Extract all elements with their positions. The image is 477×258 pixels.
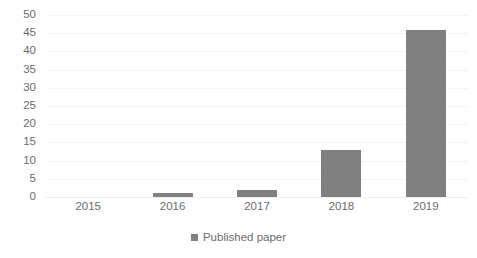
y-axis-tick-label: 20 xyxy=(23,118,36,130)
bar-2017[interactable] xyxy=(237,190,277,197)
y-axis: 50 45 40 35 30 25 20 15 10 5 0 xyxy=(0,0,44,258)
bar-slot xyxy=(299,15,383,197)
bar-2018[interactable] xyxy=(321,150,361,197)
legend-swatch-icon xyxy=(191,234,198,241)
legend-label: Published paper xyxy=(203,232,286,244)
x-axis-tick-label: 2017 xyxy=(244,201,270,213)
y-axis-tick-label: 30 xyxy=(23,82,36,94)
bar-slot xyxy=(130,15,214,197)
bar-2019[interactable] xyxy=(406,30,446,197)
x-axis-tick-label: 2018 xyxy=(329,201,355,213)
y-axis-tick-label: 40 xyxy=(23,45,36,57)
y-axis-tick-label: 45 xyxy=(23,27,36,39)
bar-2016[interactable] xyxy=(153,193,193,197)
bar-slot xyxy=(215,15,299,197)
published-paper-bar-chart: 50 45 40 35 30 25 20 15 10 5 0 xyxy=(0,0,477,258)
y-axis-tick-label: 50 xyxy=(23,9,36,21)
plot-area xyxy=(46,15,468,197)
y-axis-tick-label: 35 xyxy=(23,64,36,76)
x-axis: 2015 2016 2017 2018 2019 xyxy=(46,201,468,221)
y-axis-tick-label: 10 xyxy=(23,155,36,167)
bar-slot xyxy=(384,15,468,197)
y-axis-tick-label: 0 xyxy=(30,191,36,203)
chart-legend: Published paper xyxy=(0,232,477,244)
y-axis-tick-label: 5 xyxy=(30,173,36,185)
x-axis-tick-label: 2016 xyxy=(160,201,186,213)
y-axis-tick-label: 25 xyxy=(23,100,36,112)
gridline-baseline xyxy=(46,197,468,198)
x-axis-tick-label: 2019 xyxy=(413,201,439,213)
x-axis-tick-label: 2015 xyxy=(75,201,101,213)
bar-slot xyxy=(46,15,130,197)
y-axis-tick-label: 15 xyxy=(23,136,36,148)
